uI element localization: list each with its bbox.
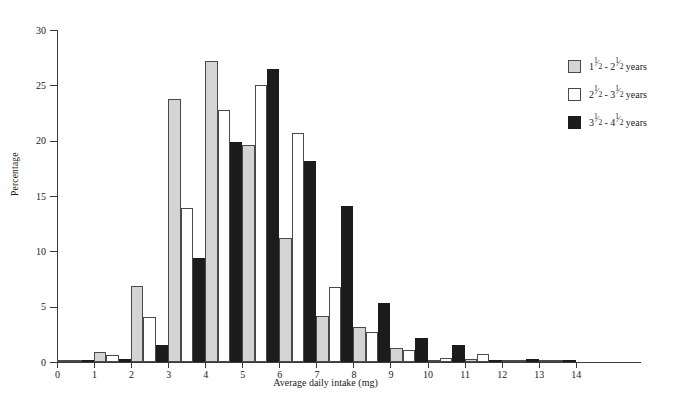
plot-area bbox=[57, 30, 598, 362]
bar bbox=[242, 145, 254, 362]
x-axis-tick: 12 bbox=[502, 362, 503, 368]
bar bbox=[106, 355, 118, 362]
y-axis-tick-label: 5 bbox=[41, 302, 50, 312]
bar bbox=[304, 161, 316, 362]
x-axis-tick: 5 bbox=[242, 362, 243, 368]
y-axis-tick-label: 30 bbox=[36, 25, 50, 35]
x-axis-tick: 11 bbox=[465, 362, 466, 368]
legend-swatch bbox=[568, 88, 581, 101]
x-axis-tick: 2 bbox=[131, 362, 132, 368]
legend-item[interactable]: 11⁄2 - 21⁄2 years bbox=[568, 52, 688, 80]
x-axis-tick: 0 bbox=[57, 362, 58, 368]
y-axis-tick-label: 15 bbox=[36, 191, 50, 201]
bar bbox=[143, 317, 155, 362]
bar bbox=[119, 359, 131, 362]
y-axis-tick: 10 bbox=[50, 251, 57, 252]
bar bbox=[551, 360, 563, 362]
y-axis-tick-label: 0 bbox=[41, 357, 50, 367]
legend-label: 31⁄2 - 41⁄2 years bbox=[589, 116, 647, 128]
bar bbox=[279, 238, 291, 362]
y-axis-tick: 30 bbox=[50, 30, 57, 31]
bar bbox=[489, 360, 501, 362]
x-axis-tick: 4 bbox=[205, 362, 206, 368]
bar bbox=[329, 287, 341, 362]
bar bbox=[205, 61, 217, 362]
x-axis-tick: 7 bbox=[316, 362, 317, 368]
legend-item[interactable]: 21⁄2 - 31⁄2 years bbox=[568, 80, 688, 108]
x-axis-tick: 1 bbox=[94, 362, 95, 368]
legend: 11⁄2 - 21⁄2 years21⁄2 - 31⁄2 years31⁄2 -… bbox=[568, 52, 688, 136]
bar bbox=[452, 345, 464, 362]
x-axis-tick: 6 bbox=[279, 362, 280, 368]
y-axis-tick: 5 bbox=[50, 307, 57, 308]
bar bbox=[292, 133, 304, 362]
x-axis-tick: 9 bbox=[390, 362, 391, 368]
bar bbox=[428, 360, 440, 362]
bar bbox=[477, 354, 489, 362]
legend-label: 21⁄2 - 31⁄2 years bbox=[589, 88, 647, 100]
legend-swatch bbox=[568, 60, 581, 73]
y-axis-tick: 20 bbox=[50, 141, 57, 142]
y-axis-tick: 15 bbox=[50, 196, 57, 197]
bar bbox=[514, 360, 526, 362]
bar bbox=[353, 327, 365, 362]
y-axis-tick-label: 25 bbox=[36, 81, 50, 91]
bar bbox=[168, 99, 180, 362]
bar bbox=[563, 360, 575, 362]
y-axis-tick: 25 bbox=[50, 85, 57, 86]
x-axis-tick: 8 bbox=[353, 362, 354, 368]
bar bbox=[526, 359, 538, 362]
y-axis-tick-label: 10 bbox=[36, 247, 50, 257]
x-axis-title-text: Average daily intake (mg) bbox=[273, 377, 378, 388]
bar bbox=[341, 206, 353, 362]
bar bbox=[267, 69, 279, 362]
bar bbox=[82, 360, 94, 362]
bar bbox=[390, 348, 402, 362]
x-axis-title: Average daily intake (mg) bbox=[0, 377, 689, 388]
bar bbox=[218, 110, 230, 362]
bar bbox=[366, 332, 378, 362]
x-axis-line bbox=[57, 362, 641, 363]
legend-label: 11⁄2 - 21⁄2 years bbox=[589, 60, 647, 72]
x-axis-tick: 14 bbox=[576, 362, 577, 368]
bar bbox=[57, 360, 69, 362]
bar bbox=[255, 85, 267, 362]
bar bbox=[316, 316, 328, 362]
bar bbox=[415, 338, 427, 362]
x-axis-tick: 3 bbox=[168, 362, 169, 368]
bar bbox=[131, 286, 143, 362]
bar bbox=[193, 258, 205, 362]
bar bbox=[156, 345, 168, 362]
legend-item[interactable]: 31⁄2 - 41⁄2 years bbox=[568, 108, 688, 136]
bar bbox=[230, 142, 242, 362]
y-axis-tick: 0 bbox=[50, 362, 57, 363]
bar bbox=[378, 303, 390, 362]
x-axis-tick: 13 bbox=[539, 362, 540, 368]
y-axis-title: Percentage bbox=[10, 152, 20, 196]
x-axis-tick: 10 bbox=[428, 362, 429, 368]
bar bbox=[465, 359, 477, 362]
bar bbox=[502, 360, 514, 362]
bar bbox=[539, 360, 551, 362]
bar bbox=[440, 358, 452, 362]
bar bbox=[69, 360, 81, 362]
bar bbox=[181, 208, 193, 362]
legend-swatch bbox=[568, 116, 581, 129]
bar bbox=[94, 352, 106, 362]
bar-chart: Percentage 051015202530 0123456789101112… bbox=[0, 0, 689, 412]
y-axis-tick-label: 20 bbox=[36, 136, 50, 146]
bar bbox=[403, 350, 415, 362]
